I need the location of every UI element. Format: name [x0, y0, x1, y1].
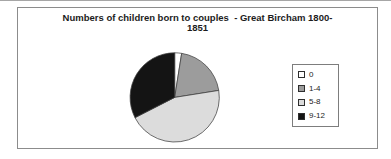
chart-title: Numbers of children born to couples - Gr… [18, 13, 377, 33]
pie-chart [125, 48, 225, 148]
legend: 01-45-89-12 [292, 64, 339, 127]
legend-label: 5-8 [309, 98, 321, 106]
legend-item-5-8: 5-8 [298, 98, 336, 106]
legend-item-0: 0 [298, 71, 336, 79]
legend-swatch-icon [298, 85, 305, 92]
page-top-rule [0, 0, 391, 1]
pie-slice-1-4 [175, 53, 219, 97]
legend-swatch-icon [298, 113, 305, 120]
legend-swatch-icon [298, 99, 305, 106]
legend-label: 0 [309, 71, 313, 79]
chart-title-line-2: 1851 [18, 23, 377, 33]
legend-swatch-icon [298, 71, 305, 78]
legend-item-1-4: 1-4 [298, 85, 336, 93]
legend-item-9-12: 9-12 [298, 112, 336, 120]
legend-label: 1-4 [309, 85, 321, 93]
legend-label: 9-12 [309, 112, 325, 120]
